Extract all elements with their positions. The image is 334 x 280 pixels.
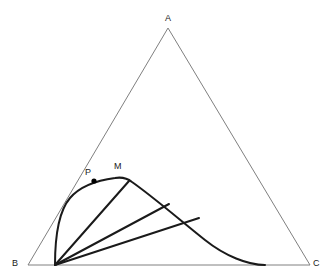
chord-group [55, 181, 199, 265]
figure-canvas [0, 0, 334, 280]
chord-2 [55, 204, 169, 265]
point-p-marker [91, 178, 96, 183]
label-point-p: P [85, 168, 91, 177]
label-vertex-b: B [12, 259, 18, 268]
label-vertex-a: A [165, 14, 171, 23]
label-point-m: M [114, 162, 122, 171]
trajectory-curve [55, 178, 265, 265]
geometry-figure: A B C P M [0, 0, 334, 280]
triangle-abc [28, 28, 310, 265]
triangle-side-ac [168, 28, 310, 265]
label-vertex-c: C [313, 259, 320, 268]
triangle-side-ab [28, 28, 168, 265]
